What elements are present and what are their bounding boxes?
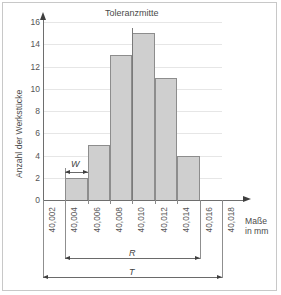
- x-tick-label-40014: 40,014: [181, 207, 191, 232]
- x-tick-40012: [155, 200, 156, 204]
- t-dim-label: T: [127, 267, 137, 277]
- y-axis-title: Anzahl der Werkstücke: [14, 90, 24, 178]
- gridline-16: [43, 22, 222, 23]
- t-arrow-left-icon: [43, 275, 48, 279]
- y-tick-label: 0: [24, 196, 40, 204]
- y-tick-label: 2: [24, 174, 40, 182]
- r-ext-right: [200, 204, 201, 259]
- y-tick-label: 12: [24, 63, 40, 71]
- w-arrow-left-icon: [65, 170, 70, 174]
- y-tick-4: 4: [22, 152, 40, 160]
- bar-40006-40008: [88, 145, 110, 201]
- x-tick-label-40012: 40,012: [159, 207, 169, 232]
- bar-40012-40014: [155, 78, 177, 201]
- y-axis-arrow-icon: [40, 12, 46, 20]
- x-axis: [43, 200, 243, 201]
- y-tick-2: 2: [22, 174, 40, 182]
- x-tick-40006: [88, 200, 89, 204]
- y-tick-8: 8: [22, 107, 40, 115]
- x-axis-unit-line1: Maße: [245, 216, 267, 226]
- x-axis-arrow-icon: [243, 196, 251, 202]
- bar-40010-40012: [132, 33, 155, 201]
- r-ext-left: [65, 204, 66, 259]
- y-axis: [43, 18, 44, 201]
- r-dim-label: R: [127, 248, 138, 258]
- chart-figure: 16 14 12 10 8 6 4 2 0 40,002 40,004 40,0…: [0, 0, 281, 295]
- y-tick-label: 4: [24, 152, 40, 160]
- bar-40008-40010: [110, 55, 132, 201]
- x-tick-label-40004: 40,004: [69, 207, 79, 232]
- w-dim-label: W: [69, 159, 82, 169]
- t-arrow-right-icon: [217, 275, 222, 279]
- x-tick-label-40016: 40,016: [204, 207, 214, 232]
- x-tick-40014: [177, 200, 178, 204]
- bar-40014-40016: [177, 156, 200, 201]
- y-tick-label: 16: [24, 18, 40, 26]
- r-dim-line: [65, 258, 200, 259]
- x-tick-label-40010: 40,010: [136, 207, 146, 232]
- y-tick-12: 12: [22, 63, 40, 71]
- x-axis-unit-line2: in mm: [245, 226, 268, 236]
- t-ext-left: [43, 204, 44, 278]
- chart-title: Toleranzmitte: [105, 8, 159, 18]
- t-dim-line: [43, 277, 222, 278]
- y-tick-16: 16: [22, 18, 40, 26]
- y-tick-6: 6: [22, 129, 40, 137]
- y-tick-10: 10: [22, 85, 40, 93]
- x-tick-label-40008: 40,008: [114, 207, 124, 232]
- y-tick-label: 14: [24, 40, 40, 48]
- r-arrow-left-icon: [65, 256, 70, 260]
- y-tick-0: 0: [22, 196, 40, 204]
- x-tick-40008: [110, 200, 111, 204]
- bar-40004-40006: [65, 178, 88, 201]
- x-tick-label-40018: 40,018: [226, 207, 236, 232]
- y-tick-14: 14: [22, 40, 40, 48]
- y-tick-label: 6: [24, 129, 40, 137]
- tolerance-center-line: [132, 28, 133, 201]
- r-arrow-right-icon: [195, 256, 200, 260]
- x-tick-label-40002: 40,002: [47, 207, 57, 232]
- y-tick-label: 10: [24, 85, 40, 93]
- x-tick-label-40006: 40,006: [92, 207, 102, 232]
- t-ext-right: [222, 204, 223, 278]
- w-arrow-right-icon: [83, 170, 88, 174]
- y-tick-label: 8: [24, 107, 40, 115]
- x-tick-40010: [132, 200, 133, 204]
- w-ext-right: [88, 168, 89, 180]
